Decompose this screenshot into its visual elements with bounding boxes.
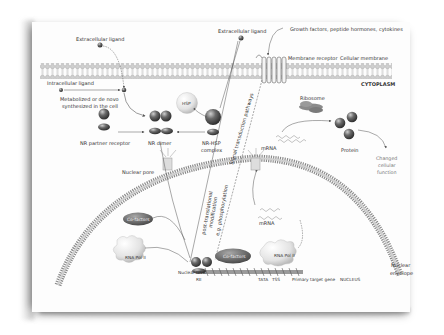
ribosome-label: Ribosome [300, 95, 325, 101]
nuclear-dna-label: Nuclear DNA [178, 270, 205, 275]
cofactors-dna-label: Co-factors [223, 254, 246, 259]
rna-pol-dna-label: RNA Pol II [274, 253, 295, 258]
nuclear-dna-icon [203, 268, 303, 276]
nuclear-pore-left-icon [160, 148, 176, 170]
re-label: RE [196, 277, 202, 282]
ptm-label-line3: e.g. phosphorylation [214, 184, 230, 236]
cytoplasm-label: CYTOPLASM [361, 81, 395, 87]
changed-function-label-line3: function [377, 170, 397, 175]
mrna-nucleus-icon [258, 209, 282, 220]
changed-function-label-line2: cellular [378, 163, 396, 168]
nr-partner-receptor-label: NR partner receptor [80, 140, 131, 147]
nr-dimer-label: NR dimer [148, 140, 172, 146]
cofactors-left-label: Co-factors [127, 217, 150, 222]
membrane-receptor-label: Membrane receptor [288, 55, 338, 62]
nucleus-label: NUCLEUS [340, 277, 361, 282]
signal-transduction-label: Signal transduction pathways [228, 92, 255, 166]
hsp-label: HSP [182, 101, 191, 106]
nr-hsp-label-line2: complex [201, 147, 222, 154]
cellular-membrane-label: Cellular membrane [340, 55, 388, 61]
extracellular-ligand-center-icon [239, 36, 244, 41]
protein-icon [335, 112, 358, 140]
rna-pol-left-label: RNA Pol II [125, 255, 146, 260]
pathway-diagram: Extracellular ligand Extracellular ligan… [0, 0, 444, 335]
changed-function-label-line1: Changed [376, 156, 397, 161]
nuclear-envelope-label-line1: Nuclear [391, 262, 411, 268]
intracellular-ligand-label: Intracellular ligand [47, 80, 94, 87]
ribosome-icon [299, 101, 323, 113]
metabolized-label-line2: synthesized in the cell [62, 103, 118, 110]
mrna-nucleus-label: mRNA [259, 220, 275, 226]
nuclear-envelope [58, 158, 400, 285]
growth-factors-label: Growth factors, peptide hormones, cytoki… [290, 26, 403, 33]
mrna-cytoplasm-icon [276, 136, 306, 143]
intracellular-ligand-icon [59, 88, 63, 92]
primary-target-gene-label: Primary target gene [292, 277, 335, 282]
nuclear-envelope-label-line2: envelope [390, 270, 413, 277]
nr-hsp-label-line1: NR-HSP [202, 140, 221, 146]
nr-partner-receptor-icon [98, 109, 110, 131]
extracellular-ligand-left-icon [98, 43, 103, 48]
tata-label: TATA [257, 277, 268, 282]
nr-dimer-icon [149, 111, 173, 135]
nr-hsp-complex-icon [205, 109, 221, 135]
metabolized-label-line1: Metabolized or de novo [60, 96, 119, 102]
extracellular-ligand-left-label: Extracellular ligand [76, 36, 124, 43]
extracellular-ligand-center-label: Extracellular ligand [218, 28, 266, 35]
tss-label: TSS [271, 277, 280, 282]
cell-membrane [40, 63, 392, 79]
protein-label: Protein [341, 147, 359, 153]
mrna-cytoplasm-label: mRNA [261, 145, 277, 151]
nuclear-pore-label: Nuclear pore [122, 169, 154, 176]
